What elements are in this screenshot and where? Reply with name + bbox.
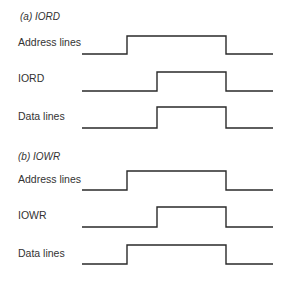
signal-label: Data lines <box>18 247 65 259</box>
signal-label: Address lines <box>18 36 81 48</box>
signal-label: IOWR <box>18 209 47 221</box>
signal-label: IORD <box>18 72 45 84</box>
signal-label: Data lines <box>18 110 65 122</box>
waveform <box>82 36 273 54</box>
signal-data-lines-b: Data lines <box>18 245 273 264</box>
section-b-iowr: (b) IOWR Address lines IOWR Data lines <box>18 151 273 264</box>
signal-label: Address lines <box>18 173 81 185</box>
signal-data-lines-a: Data lines <box>18 107 273 128</box>
timing-diagram: (a) IORD Address lines IORD Data lines (… <box>0 0 285 282</box>
waveform <box>82 207 273 227</box>
waveform <box>82 245 273 264</box>
signal-iowr: IOWR <box>18 207 273 227</box>
signal-address-lines-b: Address lines <box>18 171 273 190</box>
signal-iord: IORD <box>18 72 273 91</box>
waveform <box>82 171 273 190</box>
signal-address-lines-a: Address lines <box>18 36 273 54</box>
section-title-a: (a) IORD <box>20 11 60 22</box>
waveform <box>82 72 273 91</box>
section-title-b: (b) IOWR <box>18 151 60 162</box>
section-a-iord: (a) IORD Address lines IORD Data lines <box>18 11 273 128</box>
waveform <box>82 107 273 128</box>
